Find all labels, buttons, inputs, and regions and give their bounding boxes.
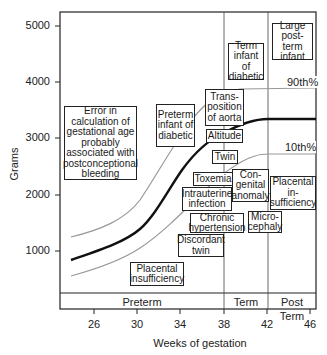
annotation-toxemia: Toxemia bbox=[193, 172, 233, 186]
period-term: Term bbox=[224, 295, 268, 309]
x-tick-42: 42 bbox=[255, 318, 279, 330]
annotation-placental-insufficiency-bottom: Placental insufficiency bbox=[130, 262, 184, 286]
y-tick-4000: 4000 bbox=[10, 75, 50, 87]
y-tick-2000: 2000 bbox=[10, 188, 50, 200]
annotation-placental-insufficiency-right: Placental in- sufficiency bbox=[270, 176, 316, 210]
annotation-preterm-diabetic: Preterm infant of diabetic bbox=[156, 104, 195, 147]
period-preterm: Preterm bbox=[60, 295, 224, 309]
x-tick-34: 34 bbox=[168, 318, 192, 330]
y-axis-title: Grams bbox=[8, 144, 20, 184]
annotation-discordant-twin: Discordant twin bbox=[178, 234, 224, 257]
p10-label: 10th% bbox=[285, 141, 316, 153]
y-tick-3000: 3000 bbox=[10, 131, 50, 143]
x-axis-ticks bbox=[94, 309, 310, 314]
annotation-error-gestational-age: Error in calculation of gestational age … bbox=[64, 106, 137, 180]
x-tick-30: 30 bbox=[125, 318, 149, 330]
annotation-term-diabetic: Term infant of diabetic bbox=[228, 43, 264, 80]
x-tick-26: 26 bbox=[82, 318, 106, 330]
annotation-chronic-hypertension: Chronic hypertension bbox=[190, 213, 244, 233]
annotation-microcephaly: Micro- cephaly bbox=[248, 211, 282, 233]
annotation-twin: Twin bbox=[212, 150, 238, 164]
annotation-altitude: Altitude bbox=[206, 129, 243, 143]
period-postterm: Post Term bbox=[268, 295, 316, 309]
annotation-congenital-anomaly: Con- genital anomaly bbox=[232, 169, 269, 202]
y-tick-1000: 1000 bbox=[10, 244, 50, 256]
x-axis-title: Weeks of gestation bbox=[140, 337, 260, 349]
annotation-large-postterm: Large post-term infant bbox=[272, 23, 313, 60]
annotation-intrauterine-infection: Intrauterine infection bbox=[182, 187, 232, 211]
annotation-transposition-aorta: Trans- position of aorta bbox=[205, 89, 244, 126]
y-axis-ticks bbox=[55, 26, 60, 251]
x-tick-38: 38 bbox=[212, 318, 236, 330]
p90-label: 90th% bbox=[287, 76, 318, 88]
y-tick-5000: 5000 bbox=[10, 19, 50, 31]
